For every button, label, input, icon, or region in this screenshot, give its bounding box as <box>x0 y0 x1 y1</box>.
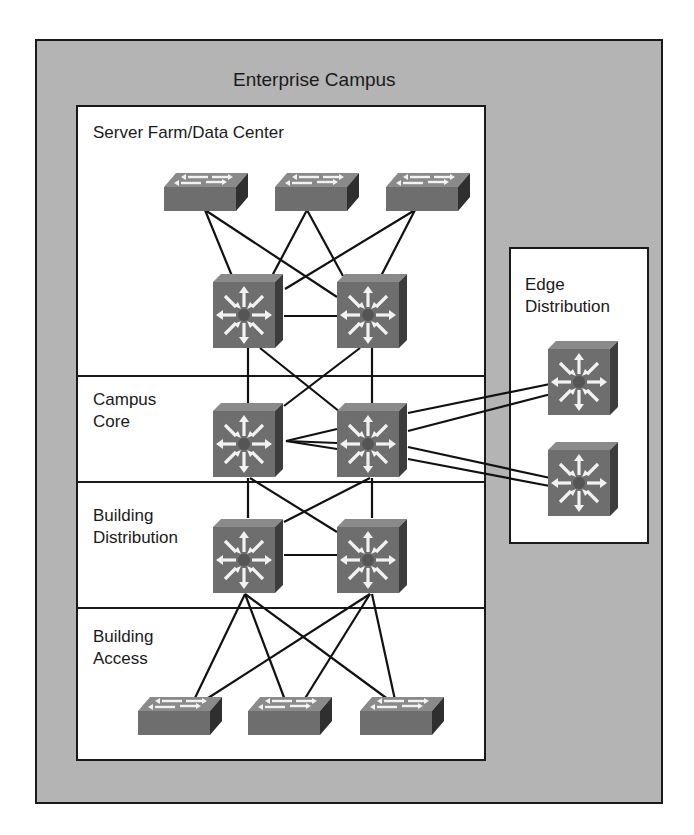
distribution-multilayer-switch-1 <box>213 519 283 593</box>
enterprise-campus-title: Enterprise Campus <box>233 69 396 91</box>
server-farm-label: Server Farm/Data Center <box>93 122 284 144</box>
server-farm-multilayer-switch-2 <box>337 274 407 348</box>
edge-multilayer-switch-1 <box>548 341 618 415</box>
building-distribution-label: Building Distribution <box>93 505 178 549</box>
building-access-label: Building Access <box>93 626 154 670</box>
server-farm-switch-1 <box>164 173 248 211</box>
core-multilayer-switch-2 <box>337 403 407 477</box>
server-farm-multilayer-switch-1 <box>213 274 283 348</box>
edge-distribution-label: Edge Distribution <box>525 274 610 318</box>
server-farm-switch-3 <box>386 173 470 211</box>
edge-multilayer-switch-2 <box>548 442 618 516</box>
access-switch-1 <box>138 697 222 735</box>
distribution-multilayer-switch-2 <box>337 519 407 593</box>
server-farm-switch-2 <box>275 173 359 211</box>
core-multilayer-switch-1 <box>213 403 283 477</box>
access-switch-2 <box>248 697 332 735</box>
access-switch-3 <box>360 697 444 735</box>
campus-core-label: Campus Core <box>93 389 156 433</box>
